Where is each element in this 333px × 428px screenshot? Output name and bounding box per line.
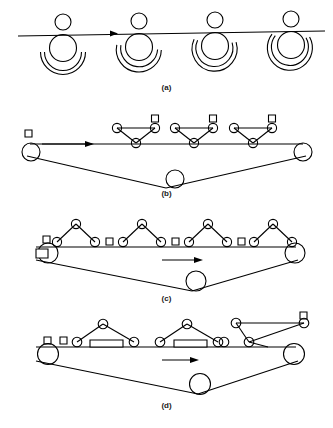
- truss-left-chord: [234, 128, 253, 143]
- panel-c-caption: (c): [0, 294, 333, 303]
- panel-d-drawing: [0, 311, 333, 428]
- pulley-left-b: [22, 143, 40, 161]
- truss-c-3: [184, 219, 231, 246]
- panel-d-caption: (d): [0, 401, 333, 410]
- assembly-d-2: [155, 319, 223, 347]
- large-circle-icon: [202, 33, 229, 60]
- truss-left-chord: [189, 224, 208, 242]
- truss-node-icon: [219, 337, 229, 347]
- block-square-icon: [238, 238, 245, 245]
- unit-a-4: [267, 11, 312, 70]
- large-circle-icon: [50, 35, 77, 62]
- block-square-icon: [60, 337, 67, 344]
- outer-arc-icon: [267, 34, 312, 70]
- truss-right-chord: [253, 128, 272, 143]
- panel-rectangle-icon: [90, 340, 123, 347]
- pulley-bottom-b: [166, 170, 184, 188]
- block-square-icon: [25, 130, 32, 137]
- block-square-icon: [106, 238, 113, 245]
- truss-right-chord: [208, 224, 227, 242]
- panel-d: [0, 311, 333, 428]
- truss-left-chord: [117, 128, 136, 143]
- tilted-truss-left-chord: [236, 323, 249, 342]
- small-circle-icon: [131, 13, 147, 29]
- panel-b-caption: (b): [0, 189, 333, 198]
- block-square-icon: [43, 236, 50, 243]
- belt-lower-right-c: [192, 260, 298, 291]
- unit-a-1: [41, 14, 86, 75]
- large-block-square-icon: [36, 249, 48, 258]
- small-circle-icon: [55, 14, 71, 30]
- small-circle-icon: [283, 11, 299, 27]
- direction-arrow-icon-b: [85, 141, 94, 147]
- pulley-right-b: [294, 143, 312, 161]
- outer-arc-icon: [41, 52, 86, 75]
- belt-lower-left-b: [27, 156, 166, 188]
- truss-right-chord: [194, 128, 213, 143]
- block-square-icon: [172, 238, 179, 245]
- small-circle-icon: [207, 12, 223, 28]
- truss-c-4: [249, 219, 296, 246]
- truss-b-1: [112, 115, 159, 148]
- direction-arrow-icon-d: [190, 357, 199, 363]
- pulley-bottom-c: [186, 271, 206, 291]
- belt-lower-right-d: [198, 361, 298, 394]
- belt-lower-left-d: [36, 361, 198, 394]
- conveyor-line-a: [18, 31, 325, 36]
- truss-left-chord: [57, 224, 76, 242]
- unit-a-2: [116, 13, 161, 72]
- block-square-icon: [44, 337, 51, 344]
- direction-arrow-icon-c: [194, 257, 203, 263]
- pulley-bottom-d: [190, 374, 211, 395]
- truss-left-chord: [254, 224, 273, 242]
- block-square-icon: [210, 115, 217, 122]
- truss-b-2: [170, 115, 217, 148]
- panel-rectangle-icon: [174, 340, 207, 347]
- unit-a-3: [192, 12, 237, 71]
- truss-right-chord: [273, 224, 292, 242]
- truss-right-chord: [142, 224, 161, 242]
- truss-right-chord: [187, 324, 218, 342]
- figure-root: (a): [0, 0, 333, 428]
- truss-b-3: [229, 115, 276, 148]
- truss-c-2: [118, 219, 165, 246]
- belt-lower-left-c: [36, 260, 192, 291]
- truss-left-chord: [123, 224, 142, 242]
- direction-arrow-icon-a: [110, 31, 118, 37]
- truss-right-chord: [136, 128, 155, 143]
- panel-a-caption: (a): [0, 83, 333, 92]
- large-circle-icon: [126, 34, 153, 61]
- block-square-icon: [269, 115, 276, 122]
- truss-left-chord: [175, 128, 194, 143]
- tilted-truss-d: [219, 312, 309, 347]
- truss-c-1: [52, 219, 99, 246]
- truss-right-chord: [103, 324, 134, 342]
- assembly-d-1: [72, 319, 139, 347]
- block-square-icon: [152, 115, 159, 122]
- truss-right-chord: [76, 224, 95, 242]
- large-circle-icon: [278, 32, 305, 59]
- belt-lower-right-b: [166, 156, 306, 188]
- tilted-truss-right-chord: [249, 323, 304, 342]
